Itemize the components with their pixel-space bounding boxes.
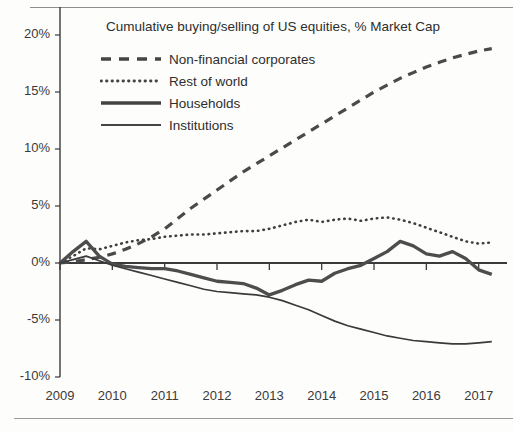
x-tick-label: 2014	[299, 388, 345, 403]
x-tick-label: 2010	[89, 388, 135, 403]
x-tick-label: 2015	[351, 388, 397, 403]
legend-item[interactable]: Non-financial corporates	[100, 48, 315, 70]
y-tick-label: -5%	[8, 311, 50, 326]
chart-title: Cumulative buying/selling of US equities…	[106, 19, 440, 34]
x-tick-label: 2009	[37, 388, 83, 403]
series-line-3	[60, 256, 492, 344]
y-tick-label: 5%	[8, 197, 50, 212]
series-line-1	[60, 217, 492, 263]
x-tick-label: 2016	[403, 388, 449, 403]
y-tick-label: -10%	[8, 368, 50, 383]
bottom-divider-rule	[14, 418, 513, 419]
y-tick-label: 10%	[8, 140, 50, 155]
x-tick-label: 2013	[246, 388, 292, 403]
x-tick-label: 2017	[456, 388, 502, 403]
legend-label: Rest of world	[169, 74, 248, 89]
legend-item[interactable]: Households	[100, 92, 315, 114]
legend-label: Households	[169, 96, 240, 111]
y-tick-label: 20%	[8, 26, 50, 41]
legend-label: Non-financial corporates	[169, 52, 315, 67]
chart-screenshot: 20%15%10%5%0%-5%-10% 2009201020112012201…	[0, 0, 513, 432]
legend-item[interactable]: Rest of world	[100, 70, 315, 92]
legend-swatch-solid-thin-icon	[100, 118, 162, 132]
y-tick-label: 0%	[8, 254, 50, 269]
chart-legend: Non-financial corporatesRest of worldHou…	[100, 48, 315, 136]
legend-label: Institutions	[169, 118, 234, 133]
x-tick-label: 2011	[142, 388, 188, 403]
legend-swatch-dotted-icon	[100, 74, 162, 88]
y-tick-label: 15%	[8, 83, 50, 98]
x-tick-label: 2012	[194, 388, 240, 403]
legend-swatch-solid-thick-icon	[100, 96, 162, 110]
legend-item[interactable]: Institutions	[100, 114, 315, 136]
legend-swatch-dashed-icon	[100, 52, 162, 66]
